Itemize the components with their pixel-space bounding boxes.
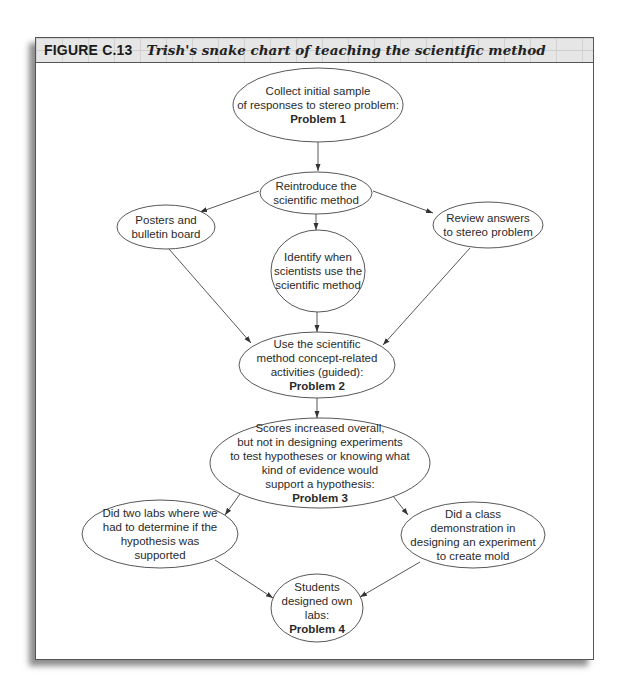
arrow-n8-to-n10 xyxy=(215,560,273,598)
arrow-n3-to-n6 xyxy=(169,249,251,343)
node-ellipse xyxy=(117,205,215,249)
node-n7: Scores increased overall,but not in desi… xyxy=(210,418,430,508)
arrow-n4-to-n6 xyxy=(383,248,470,345)
arrow-n2-to-n3 xyxy=(200,191,259,212)
arrow-n7-to-n9 xyxy=(393,496,408,515)
arrow-n9-to-n10 xyxy=(360,562,420,597)
arrow-n2-to-n4 xyxy=(373,191,433,213)
node-n10: Studentsdesigned ownlabs:Problem 4 xyxy=(271,574,363,642)
snake-chart-diagram: Collect initial sampleof responses to st… xyxy=(0,0,623,694)
nodes-layer: Collect initial sampleof responses to st… xyxy=(82,68,545,642)
node-n9: Did a classdemonstration indesigning an … xyxy=(401,502,545,568)
node-n1: Collect initial sampleof responses to st… xyxy=(233,68,403,142)
node-n3: Posters andbulletin board xyxy=(117,205,215,249)
node-ellipse xyxy=(260,172,372,214)
node-ellipse xyxy=(433,202,543,248)
node-label: Identify whenscientists use thescientifi… xyxy=(274,251,362,291)
node-n5: Identify whenscientists use thescientifi… xyxy=(271,230,365,312)
node-n6: Use the scientificmethod concept-related… xyxy=(239,332,395,398)
arrow-n7-to-n8 xyxy=(225,494,240,515)
node-n4: Review answersto stereo problem xyxy=(433,202,543,248)
node-n2: Reintroduce thescientific method xyxy=(260,172,372,214)
node-n8: Did two labs where wehad to determine if… xyxy=(82,500,238,568)
